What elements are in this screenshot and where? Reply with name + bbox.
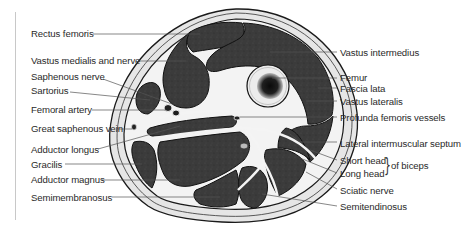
femur-bone: [247, 65, 289, 107]
label-sciatic-nerve: Sciatic nerve: [340, 185, 394, 196]
brace-icon: }: [384, 155, 391, 175]
label-vastus-lateralis: Vastus lateralis: [340, 96, 403, 107]
semitendinosus-shape: [239, 166, 268, 208]
label-semimembranosus: Semimembranosus: [31, 192, 112, 203]
label-adductor-longus: Adductor longus: [31, 144, 99, 155]
label-femoral-artery: Femoral artery: [31, 104, 92, 115]
label-profunda-femoris-vessels: Profunda femoris vessels: [340, 112, 445, 123]
femoral-artery-shape: [164, 105, 172, 112]
label-long-head: Long head: [340, 168, 384, 179]
label-semitendinosus: Semitendinosus: [340, 201, 407, 212]
label-saphenous-nerve: Saphenous nerve: [31, 71, 105, 82]
label-great-saphenous-vein: Great saphenous vein: [31, 123, 123, 134]
label-rectus-femoris: Rectus femoris: [31, 28, 94, 39]
label-sartorius: Sartorius: [31, 85, 69, 96]
label-femur: Femur: [340, 72, 367, 83]
femoral-vein-shape: [173, 110, 180, 116]
label-of-biceps: of biceps: [391, 160, 429, 171]
label-vastus-medialis-and-nerve: Vastus medialis and nerve: [31, 55, 140, 66]
label-vastus-intermedius: Vastus intermedius: [340, 47, 419, 58]
label-short-head: Short head: [340, 155, 386, 166]
sciatic-nerve-shape: [240, 143, 248, 149]
great-saphenous-vein-shape: [132, 124, 137, 130]
label-fascia-lata: Fascia lata: [340, 83, 385, 94]
profunda-femoris-vessels-shape: [234, 116, 240, 120]
label-lateral-intermuscular-septum: Lateral intermuscular septum: [340, 138, 461, 149]
label-gracilis: Gracilis: [31, 159, 62, 170]
label-adductor-magnus: Adductor magnus: [31, 174, 105, 185]
